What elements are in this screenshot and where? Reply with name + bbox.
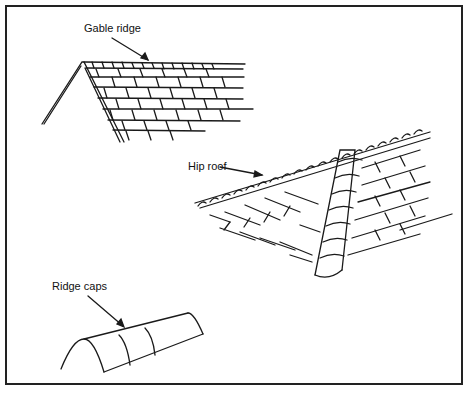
gable-ridge-arrow [112,38,148,60]
roof-illustration [0,0,469,394]
ridge-caps [61,313,203,372]
hip-roof-arrow [220,167,262,177]
gable-roof [42,62,253,142]
hip-roof [195,130,452,277]
ridge-caps-arrow [88,296,124,327]
hip-right-tiles [348,150,452,255]
hip-left-tiles [210,192,320,262]
gable-shingle-tabs [92,62,229,140]
